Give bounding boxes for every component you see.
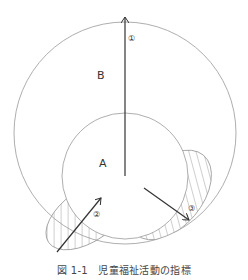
label-arrow-3: ③	[188, 204, 195, 213]
diagram-canvas: B A ① ② ③	[0, 0, 248, 280]
label-b: B	[97, 69, 105, 82]
hatched-region-right	[112, 135, 228, 256]
label-arrow-2: ②	[93, 210, 100, 219]
label-arrow-1: ①	[128, 34, 135, 43]
label-a: A	[99, 157, 107, 170]
figure-caption: 図 1-1 児童福祉活動の指標	[0, 262, 248, 277]
